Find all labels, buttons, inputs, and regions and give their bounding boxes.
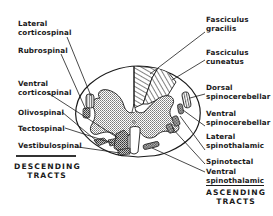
heading-line: ASCENDING bbox=[202, 188, 270, 197]
label-ventral-corticospinal: Ventral corticospinal bbox=[18, 80, 71, 97]
heading-line: DESCENDING bbox=[14, 162, 80, 171]
label-line: cuneatus bbox=[206, 58, 249, 67]
label-dorsal-spinocerebellar: Dorsal spinocerebellar bbox=[206, 84, 270, 101]
label-ventral-spinocerebellar: Ventral spinocerebellar bbox=[206, 110, 270, 127]
spinal-cord-tracts-diagram: Lateral corticospinal Rubrospinal Ventra… bbox=[0, 0, 273, 216]
label-spinotectal: Spinotectal bbox=[206, 158, 253, 167]
label-line: spinocerebellar bbox=[206, 93, 270, 102]
label-fasciculus-cuneatus: Fasciculus cuneatus bbox=[206, 49, 249, 66]
label-fasciculus-gracilis: Fasciculus gracilis bbox=[206, 16, 249, 33]
label-line: spinocerebellar bbox=[206, 119, 270, 128]
label-rubrospinal: Rubrospinal bbox=[18, 47, 68, 56]
label-line: gracilis bbox=[206, 25, 249, 34]
ascending-tracts-heading: ASCENDING TRACTS bbox=[202, 188, 270, 207]
label-line: corticospinal bbox=[18, 29, 71, 38]
label-tectospinal: Tectospinal bbox=[18, 125, 65, 134]
label-line: corticospinal bbox=[18, 89, 71, 98]
label-lateral-spinothalamic: Lateral spinothalamic bbox=[206, 133, 264, 150]
heading-line: TRACTS bbox=[202, 197, 270, 206]
descending-tracts-heading: DESCENDING TRACTS bbox=[14, 162, 80, 181]
label-line: spinothalamic bbox=[206, 177, 264, 187]
heading-line: TRACTS bbox=[14, 171, 80, 180]
descending-heading-rule bbox=[16, 155, 76, 157]
label-vestibulospinal: Vestibulospinal bbox=[18, 142, 82, 151]
label-line: spinothalamic bbox=[206, 142, 264, 151]
lateral-corticospinal-region bbox=[86, 94, 94, 108]
label-ventral-spinothalamic: Ventral spinothalamic bbox=[206, 168, 264, 186]
label-olivospinal: Olivospinal bbox=[18, 109, 64, 118]
label-lateral-corticospinal: Lateral corticospinal bbox=[18, 20, 71, 37]
